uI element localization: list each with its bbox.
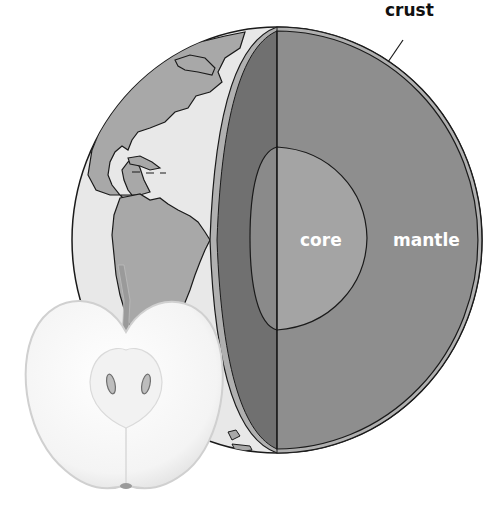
apple-blossom-end (120, 483, 132, 489)
core-label: core (300, 230, 342, 250)
crust-leader-line (388, 40, 403, 62)
crust-label: crust (385, 0, 434, 20)
earth-apple-diagram (0, 0, 502, 507)
mantle-label: mantle (393, 230, 460, 250)
